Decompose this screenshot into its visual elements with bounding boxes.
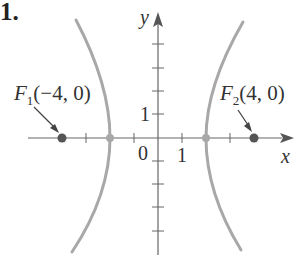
x-axis-arrow-icon [280,133,294,143]
focus-f1-pointer-arrow-icon [34,107,56,129]
focus-f2-arrowhead-icon [244,122,252,132]
focus-f2-label: F2(4, 0) [219,81,285,108]
hyperbola-figure: y x 0 1 1 F1(−4, 0) F2(4, 0) [0,0,297,263]
y-axis-label: y [138,6,149,29]
focus-f1-arrowhead-icon [50,124,59,133]
vertex-right [202,134,210,142]
focus-f2-dot [250,134,259,143]
x-unit-label: 1 [177,144,187,166]
focus-f1-dot [58,134,67,143]
hyperbola-right-branch [206,22,243,250]
y-unit-label: 1 [140,103,150,125]
x-axis-label: x [280,145,290,167]
focus-f1-label: F1(−4, 0) [13,81,91,108]
origin-label: 0 [138,142,148,164]
vertex-left [106,134,114,142]
hyperbola-left-branch [72,20,110,252]
